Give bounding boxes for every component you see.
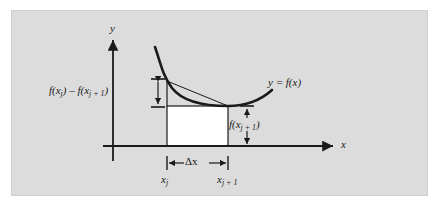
delta-x-label: Δx: [185, 156, 198, 167]
tick-label-xj1: xj + 1: [217, 174, 237, 187]
inscribed-rectangle: [167, 106, 228, 146]
y-axis-label: y: [110, 23, 115, 34]
rect-height-label: f(xj + 1): [229, 119, 260, 132]
curve-label: y = f(x): [268, 77, 301, 88]
function-curve: [155, 47, 272, 106]
tick-label-xj: xj: [161, 174, 168, 187]
figure-page: f(xj) – f(xj + 1) f(xj + 1) y = f(x) y x…: [0, 0, 439, 207]
x-axis-label: x: [341, 139, 346, 150]
height-difference-label: f(xj) – f(xj + 1): [49, 85, 108, 98]
